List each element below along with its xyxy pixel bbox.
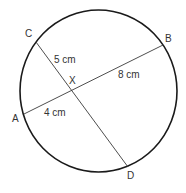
- point-label-d: D: [127, 170, 134, 181]
- point-label-x: X: [69, 75, 76, 86]
- point-label-c: C: [25, 28, 32, 39]
- circle-diagram: C B A D X 5 cm 8 cm 4 cm: [0, 0, 186, 193]
- chord-cd: [36, 42, 128, 167]
- chord-ab: [24, 45, 163, 114]
- segment-label-ax: 4 cm: [44, 107, 66, 118]
- segment-label-cx: 5 cm: [54, 54, 76, 65]
- point-label-a: A: [12, 113, 19, 124]
- point-label-b: B: [165, 33, 172, 44]
- circle: [20, 10, 177, 172]
- segment-label-xb: 8 cm: [118, 69, 140, 80]
